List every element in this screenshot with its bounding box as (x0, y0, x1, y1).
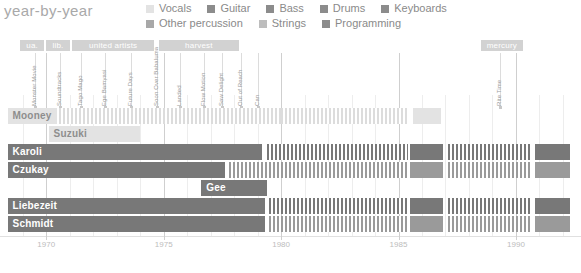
era-band: ua.lib.united artistsharvestmercury (0, 40, 581, 51)
legend-label: Guitar (220, 3, 250, 14)
legend-swatch-icon (259, 20, 267, 28)
album-stem: Landed (180, 53, 181, 108)
axis-tick-label: 1990 (507, 240, 525, 249)
era-label-harvest: harvest (159, 40, 239, 51)
member-row-karoli[interactable]: Karoli (0, 144, 581, 160)
activity-segment (229, 162, 407, 178)
chart-root: year-by-year VocalsGuitarBassDrumsKeyboa… (0, 0, 581, 273)
album-stem: Future Days (131, 53, 132, 108)
legend-label: Strings (272, 18, 306, 29)
legend-swatch-icon (320, 5, 328, 13)
legend-item-bass[interactable]: Bass (266, 3, 303, 14)
album-title: Can (254, 95, 260, 106)
chart-plot: ua.lib.united artistsharvestmercury Mons… (0, 40, 581, 255)
member-name-czukay: Czukay (8, 162, 54, 178)
activity-segment (535, 144, 570, 160)
album-title: Ege Bamyasi (101, 70, 107, 106)
album-stem: Ege Bamyasi (105, 53, 106, 108)
album-title: Tago Mago (77, 75, 83, 106)
legend-item-other-percussion[interactable]: Other percussion (146, 18, 243, 29)
album-stem: Flow Motion (204, 53, 205, 108)
activity-segment (448, 144, 530, 160)
axis-tick-label: 1985 (390, 240, 408, 249)
era-label-lib: lib. (46, 40, 69, 51)
legend-item-programming[interactable]: Programming (322, 18, 401, 29)
member-row-czukay[interactable]: Czukay (0, 162, 581, 178)
legend-swatch-icon (322, 20, 330, 28)
legend-swatch-icon (207, 5, 215, 13)
album-title: Saw Delight (218, 73, 224, 106)
legend: VocalsGuitarBassDrumsKeyboardsOther perc… (146, 1, 566, 31)
album-stem: Can (258, 53, 259, 108)
activity-segment (410, 198, 443, 214)
x-axis: 19701975198019851990 (0, 236, 581, 255)
axis-tick-label: 1975 (155, 240, 173, 249)
legend-item-drums[interactable]: Drums (320, 3, 365, 14)
axis-line (0, 236, 581, 237)
legend-swatch-icon (266, 5, 274, 13)
axis-tick-label: 1980 (272, 240, 290, 249)
era-label-unitedartists: united artists (72, 40, 154, 51)
album-stem: Monster Movie (35, 53, 36, 108)
album-stem: Out of Reach (241, 53, 242, 108)
album-title: Landed (176, 85, 182, 106)
activity-segment (410, 162, 443, 178)
legend-item-strings[interactable]: Strings (259, 18, 306, 29)
legend-label: Other percussion (159, 18, 243, 29)
legend-label: Drums (333, 3, 365, 14)
activity-segment (410, 216, 443, 232)
legend-swatch-icon (146, 20, 154, 28)
axis-tick-label: 1970 (37, 240, 55, 249)
album-title: Rite Time (496, 80, 502, 106)
activity-segment (448, 198, 530, 214)
album-title: Monster Movie (31, 65, 37, 106)
album-markers: Monster MovieSoundtracksTago MagoEge Bam… (0, 53, 581, 108)
member-row-schmidt[interactable]: Schmidt (0, 216, 581, 232)
page-title: year-by-year (4, 2, 93, 19)
activity-segment (269, 216, 408, 232)
legend-row: Other percussionStringsProgramming (146, 16, 566, 31)
legend-swatch-icon (146, 5, 154, 13)
member-row-mooney[interactable]: Mooney (0, 108, 581, 124)
era-label-ua: ua. (20, 40, 43, 51)
legend-label: Vocals (159, 3, 191, 14)
era-label-mercury: mercury (481, 40, 523, 51)
activity-segment (269, 198, 408, 214)
legend-label: Bass (279, 3, 303, 14)
legend-label: Keyboards (394, 3, 447, 14)
activity-segment (410, 144, 443, 160)
activity-segment (413, 108, 441, 124)
member-name-gee: Gee (201, 180, 231, 196)
album-title: Flow Motion (200, 73, 206, 106)
activity-segment (281, 108, 408, 124)
member-name-liebezeit: Liebezeit (8, 198, 63, 214)
album-stem: Tago Mago (81, 53, 82, 108)
album-title: Soundtracks (56, 72, 62, 106)
member-name-mooney: Mooney (8, 108, 57, 124)
activity-segment (535, 216, 570, 232)
legend-label: Programming (335, 18, 401, 29)
legend-swatch-icon (381, 5, 389, 13)
activity-segment (35, 108, 282, 124)
activity-segment (448, 162, 530, 178)
album-title: Out of Reach (237, 69, 243, 106)
album-stem: Soundtracks (60, 53, 61, 108)
activity-segment (535, 198, 570, 214)
activity-segment (267, 144, 408, 160)
legend-item-guitar[interactable]: Guitar (207, 3, 250, 14)
member-name-karoli: Karoli (8, 144, 48, 160)
legend-row: VocalsGuitarBassDrumsKeyboards (146, 1, 566, 16)
legend-item-vocals[interactable]: Vocals (146, 3, 191, 14)
member-name-schmidt: Schmidt (8, 216, 59, 232)
activity-segment (448, 216, 530, 232)
album-title: Soon Over Babaluma (153, 47, 159, 106)
activity-segment (535, 162, 570, 178)
album-stem: Saw Delight (222, 53, 223, 108)
album-stem: Rite Time (500, 53, 501, 108)
member-rows: MooneySuzukiKaroliCzukayGeeLiebezeitSchm… (0, 108, 581, 236)
album-title: Future Days (127, 72, 133, 106)
member-row-gee[interactable]: Gee (0, 180, 581, 196)
member-row-suzuki[interactable]: Suzuki (0, 126, 581, 142)
legend-item-keyboards[interactable]: Keyboards (381, 3, 447, 14)
member-row-liebezeit[interactable]: Liebezeit (0, 198, 581, 214)
